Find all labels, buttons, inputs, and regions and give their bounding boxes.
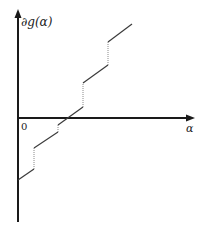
solid-segment-0 [18,169,34,180]
x-axis-arrow-icon [186,115,195,122]
subgradient-jumps [34,42,108,169]
solid-segment-3 [83,65,108,83]
solid-segment-4 [108,24,132,42]
solid-segment-2 [58,107,83,125]
x-axis-label: α [186,123,193,134]
subgradient-segments [18,24,132,180]
y-axis-label: ∂g(α) [21,16,52,28]
origin-label: 0 [21,122,27,132]
subgradient-diagram [0,0,201,229]
solid-segment-1 [34,132,58,148]
